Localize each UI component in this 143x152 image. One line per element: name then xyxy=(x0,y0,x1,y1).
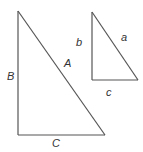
label-a: a xyxy=(121,31,127,43)
similar-triangles-diagram: B A C b a c xyxy=(0,0,143,152)
label-c: c xyxy=(106,86,112,98)
small-triangle: b a c xyxy=(76,12,138,98)
large-triangle: B A C xyxy=(7,11,105,149)
label-b: b xyxy=(76,36,82,48)
small-triangle-hypotenuse xyxy=(92,12,138,80)
label-B: B xyxy=(7,70,14,82)
label-C: C xyxy=(52,137,60,149)
label-A: A xyxy=(63,57,71,69)
